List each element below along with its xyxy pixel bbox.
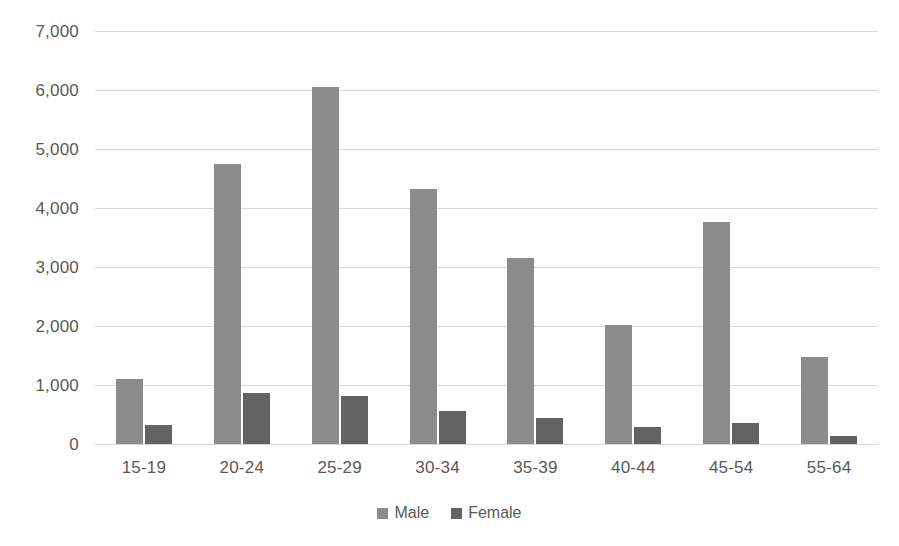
y-axis-tick-label: 7,000	[5, 23, 79, 40]
bar-chart: 01,0002,0003,0004,0005,0006,0007,000 15-…	[0, 0, 899, 546]
x-axis: 15-1920-2425-2930-3435-3940-4445-5455-64	[95, 451, 878, 485]
bar-groups	[95, 31, 878, 444]
y-axis-tick-label: 0	[5, 436, 79, 453]
bar-pair	[487, 31, 585, 444]
bar-male-20-24[interactable]	[214, 164, 241, 444]
bar-female-30-34[interactable]	[439, 411, 466, 444]
bar-female-20-24[interactable]	[243, 393, 270, 444]
plot-area	[95, 31, 878, 444]
bar-group	[389, 31, 487, 444]
gridline	[95, 444, 878, 445]
bar-female-15-19[interactable]	[145, 425, 172, 444]
bar-pair	[584, 31, 682, 444]
x-axis-tick-label: 35-39	[487, 451, 585, 485]
bar-group	[682, 31, 780, 444]
bar-male-35-39[interactable]	[507, 258, 534, 444]
bar-pair	[780, 31, 878, 444]
bar-female-40-44[interactable]	[634, 427, 661, 444]
y-axis: 01,0002,0003,0004,0005,0006,0007,000	[0, 0, 95, 546]
y-axis-tick-label: 1,000	[5, 377, 79, 394]
bar-female-25-29[interactable]	[341, 396, 368, 444]
x-axis-tick-label: 45-54	[682, 451, 780, 485]
bar-pair	[193, 31, 291, 444]
chart-legend: MaleFemale	[0, 500, 899, 526]
x-axis-tick-label: 15-19	[95, 451, 193, 485]
bar-male-55-64[interactable]	[801, 357, 828, 444]
x-axis-tick-label: 40-44	[584, 451, 682, 485]
bar-male-15-19[interactable]	[116, 379, 143, 444]
bar-pair	[389, 31, 487, 444]
y-axis-tick-label: 6,000	[5, 82, 79, 99]
bar-pair	[682, 31, 780, 444]
legend-label: Male	[394, 505, 429, 521]
legend-swatch-icon	[377, 508, 388, 519]
legend-entry-female[interactable]: Female	[451, 505, 521, 521]
bar-pair	[291, 31, 389, 444]
bar-group	[95, 31, 193, 444]
bar-male-40-44[interactable]	[605, 325, 632, 444]
x-axis-tick-label: 20-24	[193, 451, 291, 485]
x-axis-tick-label: 30-34	[389, 451, 487, 485]
y-axis-tick-label: 4,000	[5, 200, 79, 217]
legend-swatch-icon	[451, 508, 462, 519]
legend-label: Female	[468, 505, 521, 521]
bar-group	[291, 31, 389, 444]
y-axis-tick-label: 5,000	[5, 141, 79, 158]
bar-male-30-34[interactable]	[410, 189, 437, 444]
x-axis-tick-label: 25-29	[291, 451, 389, 485]
bar-female-55-64[interactable]	[830, 436, 857, 444]
y-axis-tick-label: 2,000	[5, 318, 79, 335]
bar-male-25-29[interactable]	[312, 87, 339, 444]
bar-pair	[95, 31, 193, 444]
bar-female-35-39[interactable]	[536, 418, 563, 444]
legend-entry-male[interactable]: Male	[377, 505, 429, 521]
bar-group	[487, 31, 585, 444]
x-axis-tick-label: 55-64	[780, 451, 878, 485]
bar-group	[193, 31, 291, 444]
bar-male-45-54[interactable]	[703, 222, 730, 444]
y-axis-tick-label: 3,000	[5, 259, 79, 276]
bar-group	[584, 31, 682, 444]
bar-female-45-54[interactable]	[732, 423, 759, 444]
bar-group	[780, 31, 878, 444]
